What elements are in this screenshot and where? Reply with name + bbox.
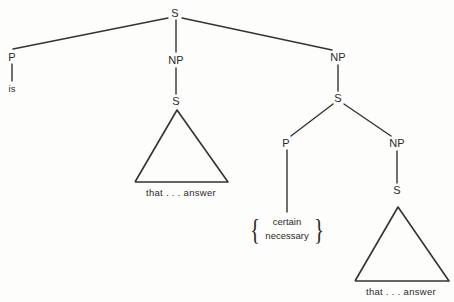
tree-node-is-terminal: is <box>9 83 16 94</box>
constituent-triangle <box>135 110 228 182</box>
tree-node-p-right: P <box>282 137 290 149</box>
tree-node-p-left: P <box>8 51 16 63</box>
tree-lines-layer <box>0 0 454 302</box>
tree-node-s-root: S <box>171 7 179 19</box>
constituent-triangle <box>355 207 449 281</box>
tree-edges <box>12 18 397 212</box>
tree-edge <box>291 104 333 136</box>
brace-item: certain <box>273 215 302 229</box>
tree-node-s-right: S <box>334 92 342 104</box>
tree-node-np-mid: NP <box>168 54 184 66</box>
tree-node-s-mid: S <box>172 95 180 107</box>
brace-item: necessary <box>265 229 308 243</box>
tree-edge <box>182 18 332 50</box>
right-brace-icon: } <box>314 214 324 244</box>
brace-items: certainnecessary <box>262 215 311 243</box>
left-brace-icon: { <box>250 214 260 244</box>
triangle-label: that . . . answer <box>366 286 436 297</box>
tree-edge <box>344 104 391 136</box>
tree-node-s-lower: S <box>393 184 401 196</box>
brace-alternatives-group: {certainnecessary} <box>248 214 326 244</box>
tree-node-np-right: NP <box>330 51 346 63</box>
tree-edge <box>13 18 168 49</box>
triangle-label: that . . . answer <box>146 187 216 198</box>
syntax-tree-diagram: that . . . answerthat . . . answerSPisNP… <box>0 0 454 302</box>
tree-node-np-lower: NP <box>389 137 405 149</box>
